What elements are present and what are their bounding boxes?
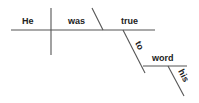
complement-divider bbox=[92, 8, 103, 30]
preposition-line bbox=[123, 30, 145, 73]
word-preposition: to bbox=[133, 39, 146, 52]
word-subject: He bbox=[22, 16, 34, 26]
word-predicate-adjective: true bbox=[121, 16, 138, 26]
word-modifier: his bbox=[176, 67, 191, 83]
word-verb: was bbox=[67, 16, 85, 26]
word-object: word bbox=[151, 53, 174, 63]
sentence-diagram: He was true to word his bbox=[0, 0, 199, 103]
